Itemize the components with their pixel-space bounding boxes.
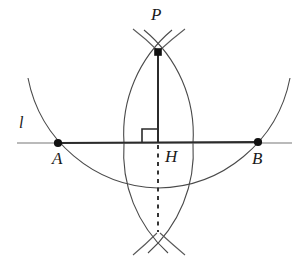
label-line-l: l (19, 115, 23, 131)
point-p-dot (154, 48, 162, 56)
point-b-dot (254, 138, 262, 146)
geometry-canvas (0, 0, 308, 267)
construction-arcs-above-p (133, 29, 185, 50)
label-foot-h: H (165, 148, 177, 165)
label-point-p: P (151, 6, 161, 23)
arc-above-p-right (160, 29, 185, 50)
arc-below-q-right (160, 233, 185, 255)
label-point-b: B (252, 150, 262, 167)
right-angle-marker (142, 129, 157, 143)
arc-below-q-left (133, 233, 157, 255)
point-a-dot (54, 139, 62, 147)
arc-above-p-left (133, 29, 157, 50)
arc-p-right (158, 78, 290, 188)
label-point-a: A (52, 150, 62, 167)
arc-p-left (28, 78, 158, 188)
geometry-figure: P A B H l (0, 0, 308, 267)
